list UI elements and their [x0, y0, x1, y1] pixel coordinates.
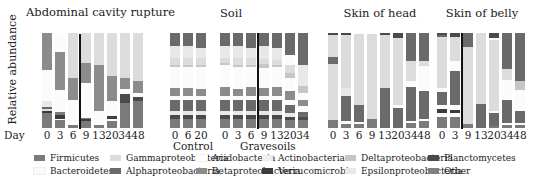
legend-swatch [262, 168, 273, 174]
legend-swatch [428, 155, 439, 161]
bar-segment [107, 101, 117, 115]
bar-segment [285, 33, 295, 55]
bar-segment [246, 67, 256, 87]
bar-segment [298, 86, 308, 93]
bar-segment [68, 125, 78, 128]
bar-segment [81, 121, 91, 128]
bar-segment [220, 100, 230, 111]
bar-segment [341, 35, 351, 88]
bar-segment [81, 63, 91, 83]
legend-swatch [262, 155, 273, 161]
bar-segment [196, 100, 206, 111]
bar-segment [170, 33, 180, 46]
bar-segment [298, 33, 308, 65]
bar-segment [328, 64, 338, 120]
bar-segment [120, 78, 130, 89]
bar-segment [476, 104, 486, 128]
legend-swatch [345, 155, 356, 161]
stacked-bar [367, 33, 377, 128]
bar-segment [183, 58, 193, 66]
bar-segment [380, 35, 390, 88]
bar-segment [220, 119, 230, 129]
legend-swatch [196, 168, 207, 174]
legend-swatch [34, 155, 45, 161]
bar-segment [328, 120, 338, 128]
bar-segment [68, 33, 78, 78]
bar-segment [272, 100, 282, 111]
bar-segment [419, 66, 429, 91]
bar-segment [367, 34, 377, 119]
stacked-bar [107, 33, 117, 128]
stacked-bar [120, 33, 130, 128]
stacked-bar [233, 33, 243, 128]
bar-segment [515, 81, 525, 90]
stacked-bar [393, 33, 403, 128]
bar-segment [515, 111, 525, 123]
legend-item: Other [428, 166, 470, 176]
panel-title-belly: Skin of belly [442, 7, 522, 20]
bar-segment [298, 65, 308, 86]
bar-segment [502, 80, 512, 100]
stacked-bar [476, 33, 486, 128]
group-label-control: Control [173, 140, 213, 152]
bar-segment [341, 124, 351, 128]
bar-segment [183, 100, 193, 111]
bar-segment [246, 48, 256, 58]
bar-segment [196, 119, 206, 129]
bar-segment [196, 33, 206, 48]
stacked-bar [502, 33, 512, 128]
bar-segment [107, 76, 117, 102]
legend-item: Bacteroidetes [34, 166, 113, 176]
stacked-bar [354, 33, 364, 128]
bar-segment [437, 117, 447, 128]
legend-label: Planctomycetes [444, 153, 516, 163]
bar-segment [246, 100, 256, 111]
legend-swatch [110, 155, 121, 161]
bar-segment [120, 94, 130, 104]
bar-segment [259, 119, 269, 129]
bar-segment [233, 119, 243, 129]
bar-segment [463, 124, 473, 128]
x-tick-label: 48 [414, 129, 434, 141]
bar-segment [450, 71, 460, 105]
bar-segment [285, 105, 295, 113]
bar-segment [170, 88, 180, 96]
bar-segment [419, 91, 429, 120]
stacked-bar [94, 33, 104, 128]
stacked-bar [489, 33, 499, 128]
x-tick-label: 48 [128, 129, 148, 141]
bar-segment [437, 92, 447, 105]
bar-segment [183, 119, 193, 129]
bar-segment [450, 61, 460, 71]
bar-segment [170, 100, 180, 111]
bar-segment [233, 67, 243, 89]
bar-segment [233, 100, 243, 111]
bar-segment [450, 117, 460, 128]
stacked-bar [220, 33, 230, 128]
legend-item: Firmicutes [34, 153, 99, 163]
bar-segment [515, 125, 525, 128]
bar-segment [183, 88, 193, 96]
bar-segment [183, 67, 193, 88]
stacked-bar [196, 33, 206, 128]
stacked-bar [285, 33, 295, 128]
x-tick-label: 48 [510, 129, 530, 141]
bar-segment [393, 38, 403, 105]
stacked-bar [55, 33, 65, 128]
bar-segment [94, 65, 104, 111]
bar-segment [42, 33, 52, 70]
bar-segment [246, 58, 256, 66]
bar-segment [120, 33, 130, 78]
rupture-divider-line [79, 34, 81, 129]
stacked-bar [42, 33, 52, 128]
stacked-bar [406, 33, 416, 128]
bar-segment [94, 125, 104, 128]
bar-segment [246, 87, 256, 96]
stacked-bar [419, 33, 429, 128]
bar-segment [406, 123, 416, 128]
stacked-bar [437, 33, 447, 128]
stacked-bar [183, 33, 193, 128]
bar-segment [298, 120, 308, 128]
bar-segment [502, 33, 512, 69]
bar-segment [233, 33, 243, 46]
